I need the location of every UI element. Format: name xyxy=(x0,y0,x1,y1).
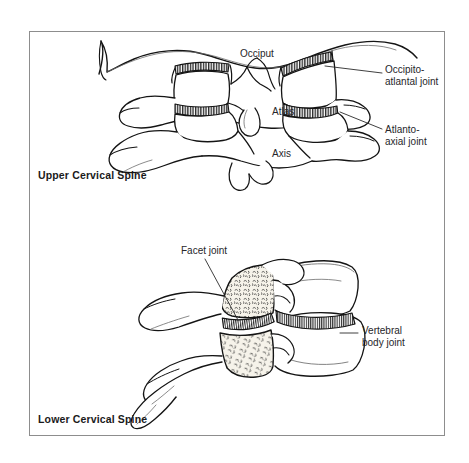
anatomy-figure: Upper Cervical Spine Lower Cervical Spin… xyxy=(0,0,469,463)
label-axis: Axis xyxy=(272,148,291,160)
label-vertebral-body-line1: Vertebral xyxy=(362,325,405,337)
label-occipito-atlantal-line2: atlantal joint xyxy=(385,76,438,88)
label-occiput: Occiput xyxy=(240,48,274,60)
label-vertebral-body-joint: Vertebral body joint xyxy=(362,325,405,349)
lower-cervical-spine-drawing xyxy=(131,259,365,429)
label-atlanto-axial-line1: Atlanto- xyxy=(385,124,427,136)
lower-cervical-spine-title: Lower Cervical Spine xyxy=(38,413,147,425)
upper-cervical-spine-drawing xyxy=(99,41,417,190)
label-atlanto-axial-joint: Atlanto- axial joint xyxy=(385,124,427,148)
upper-cervical-spine-title: Upper Cervical Spine xyxy=(38,169,147,181)
label-facet-joint: Facet joint xyxy=(181,245,227,257)
label-atlanto-axial-line2: axial joint xyxy=(385,136,427,148)
label-occipito-atlantal-joint: Occipito- atlantal joint xyxy=(385,64,438,88)
label-vertebral-body-line2: body joint xyxy=(362,337,405,349)
label-occipito-atlantal-line1: Occipito- xyxy=(385,64,438,76)
label-atlas: Atlas xyxy=(272,106,294,118)
